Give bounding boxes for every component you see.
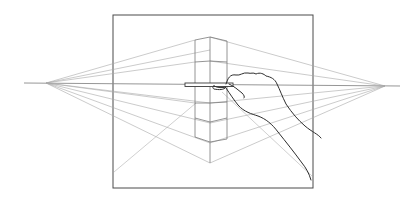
hand-with-pencil-icon (213, 73, 321, 180)
drawing-frame (113, 15, 313, 188)
left-vanishing-lines (46, 40, 210, 163)
perspective-canvas (0, 0, 414, 207)
cube (195, 37, 227, 163)
right-vanishing-lines (210, 37, 385, 163)
perspective-drawing: Two-point perspective drawing with hand … (0, 0, 414, 207)
diagonal-guides (114, 92, 312, 176)
